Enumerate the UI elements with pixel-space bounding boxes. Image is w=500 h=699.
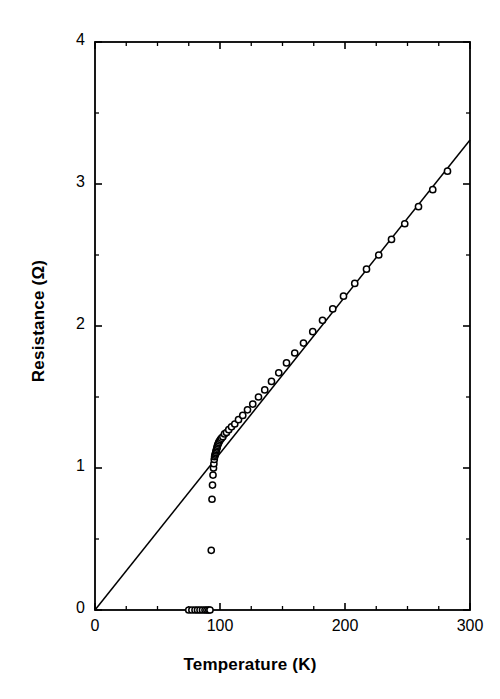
y-tick-label-0: 0 [43,599,85,617]
x-tick-label-200: 200 [315,617,375,635]
y-tick-label-4: 4 [43,31,85,49]
resistance-temperature-chart: Resistance (Ω) Temperature (K) 010020030… [0,0,500,699]
x-tick-label-100: 100 [190,617,250,635]
major-ticks [95,42,470,610]
y-tick-label-3: 3 [43,173,85,191]
minor-ticks [95,42,470,610]
x-axis-title: Temperature (K) [0,655,500,675]
linear-fit-line [95,140,470,610]
data-point-markers [186,168,451,613]
y-tick-label-1: 1 [43,457,85,475]
x-tick-label-0: 0 [65,617,125,635]
y-tick-label-2: 2 [43,315,85,333]
x-tick-label-300: 300 [440,617,500,635]
plot-canvas [0,0,500,699]
axes-frame [95,42,470,610]
